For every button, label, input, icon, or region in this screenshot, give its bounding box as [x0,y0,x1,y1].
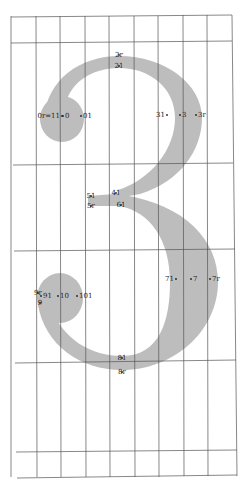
point-label-p81: 81 [118,354,127,362]
control-point-marker [57,295,59,297]
point-label-p51: 51 [87,192,96,200]
control-point-marker [209,278,211,280]
point-label-p41: 41 [112,189,121,197]
control-point-marker [195,114,197,116]
control-point-marker [175,278,177,280]
point-label-p21: 21 [115,62,124,70]
glyph-proof-diagram: 0r=110012r213133r515r41617177r9r99110101… [0,0,248,483]
point-label-p101: 101 [79,292,92,300]
point-label-p0r11: 0r=11 [37,112,60,120]
point-label-p8r: 8r [118,368,126,376]
point-label-p91: 91 [43,292,52,300]
point-label-p3: 3 [182,111,186,119]
point-label-p2r: 2r [115,51,123,59]
point-label-p7: 7 [193,275,197,283]
control-point-marker [40,295,42,297]
control-point-marker [76,295,78,297]
control-point-marker [166,114,168,116]
point-label-p61: 61 [117,201,126,209]
control-point-marker [190,278,192,280]
control-point-marker [179,114,181,116]
point-label-p0: 0 [65,112,69,120]
point-label-p7r: 7r [212,275,220,283]
control-point-marker [62,115,64,117]
point-label-p71: 71 [165,275,174,283]
point-label-p31: 31 [156,111,165,119]
point-label-p3r: 3r [198,111,206,119]
point-label-p01: 01 [83,112,92,120]
glyph-three [37,56,218,370]
point-label-p9: 9 [38,299,42,307]
control-point-marker [80,115,82,117]
point-label-p10: 10 [60,292,69,300]
point-label-p5r: 5r [87,202,95,210]
